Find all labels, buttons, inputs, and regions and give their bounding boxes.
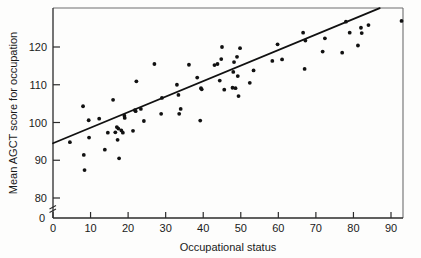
data-point [340, 51, 344, 55]
data-point [216, 62, 220, 66]
x-tick-label: 50 [235, 222, 247, 234]
data-point [348, 31, 352, 35]
plot-frame [50, 8, 404, 218]
scatter-plot-figure: 0102030405060708090 8090100110120 Occupa… [0, 0, 421, 258]
data-point [82, 153, 86, 157]
data-point [97, 117, 101, 121]
data-point [81, 104, 85, 108]
data-point [116, 138, 120, 142]
data-point [252, 69, 256, 73]
plot-canvas: 0102030405060708090 8090100110120 Occupa… [0, 0, 421, 258]
data-point [113, 130, 117, 134]
data-point [323, 36, 327, 40]
x-tick-label: 90 [385, 222, 397, 234]
data-point [195, 76, 199, 80]
data-point [276, 42, 280, 46]
data-point [360, 31, 364, 35]
regression-trend-line [53, 8, 380, 143]
data-point [222, 88, 226, 92]
data-point [198, 119, 202, 123]
data-point [237, 94, 241, 98]
y-tick-label: 120 [29, 41, 47, 53]
y-tick-label: 90 [35, 154, 47, 166]
x-tick-label: 60 [272, 222, 284, 234]
data-point [121, 131, 125, 135]
y-tick-label: 110 [29, 79, 47, 91]
x-axis-title: Occupational status [180, 241, 277, 253]
x-tick-label: 0 [50, 222, 56, 234]
data-point [83, 168, 87, 172]
data-point [142, 119, 146, 123]
data-point [177, 93, 181, 97]
data-point [187, 63, 191, 67]
data-point [235, 55, 239, 59]
x-tick-label: 30 [160, 222, 172, 234]
y-axis-origin-label: 0 [39, 212, 45, 224]
data-point [159, 112, 163, 116]
data-point [234, 86, 238, 90]
data-point [68, 140, 72, 144]
data-point [356, 44, 360, 48]
data-point [220, 45, 224, 49]
data-point [177, 112, 181, 116]
x-tick-label: 10 [84, 222, 96, 234]
y-axis-ticks: 8090100110120 [29, 41, 60, 204]
x-tick-label: 70 [310, 222, 322, 234]
data-point [153, 62, 157, 66]
data-point [248, 81, 252, 85]
data-point [236, 74, 240, 78]
x-tick-label: 40 [197, 222, 209, 234]
y-tick-label: 80 [35, 192, 47, 204]
x-tick-label: 80 [347, 222, 359, 234]
data-point [123, 116, 127, 120]
data-point [238, 46, 242, 50]
data-point [231, 70, 235, 74]
x-tick-label: 20 [122, 222, 134, 234]
data-point [106, 131, 110, 135]
data-point [303, 67, 307, 71]
data-point [117, 156, 121, 160]
regression-line [53, 8, 380, 143]
data-point [359, 26, 363, 30]
data-point [134, 79, 138, 83]
data-point [280, 58, 284, 62]
data-point [131, 129, 135, 133]
data-point [103, 148, 107, 152]
data-point [219, 57, 223, 61]
y-axis-title: Mean AGCT score for occupation [7, 32, 19, 194]
data-point [175, 83, 179, 87]
data-point [301, 31, 305, 35]
data-point [179, 107, 183, 111]
data-points [68, 19, 403, 172]
data-point [200, 87, 204, 91]
data-point [367, 23, 371, 27]
data-point [218, 79, 222, 83]
data-point [111, 98, 115, 102]
data-point [87, 136, 91, 140]
data-point [400, 19, 404, 23]
data-point [321, 50, 325, 54]
x-axis-ticks: 0102030405060708090 [50, 212, 397, 234]
y-tick-label: 100 [29, 117, 47, 129]
data-point [232, 60, 236, 64]
data-point [270, 59, 274, 63]
data-point [87, 118, 91, 122]
